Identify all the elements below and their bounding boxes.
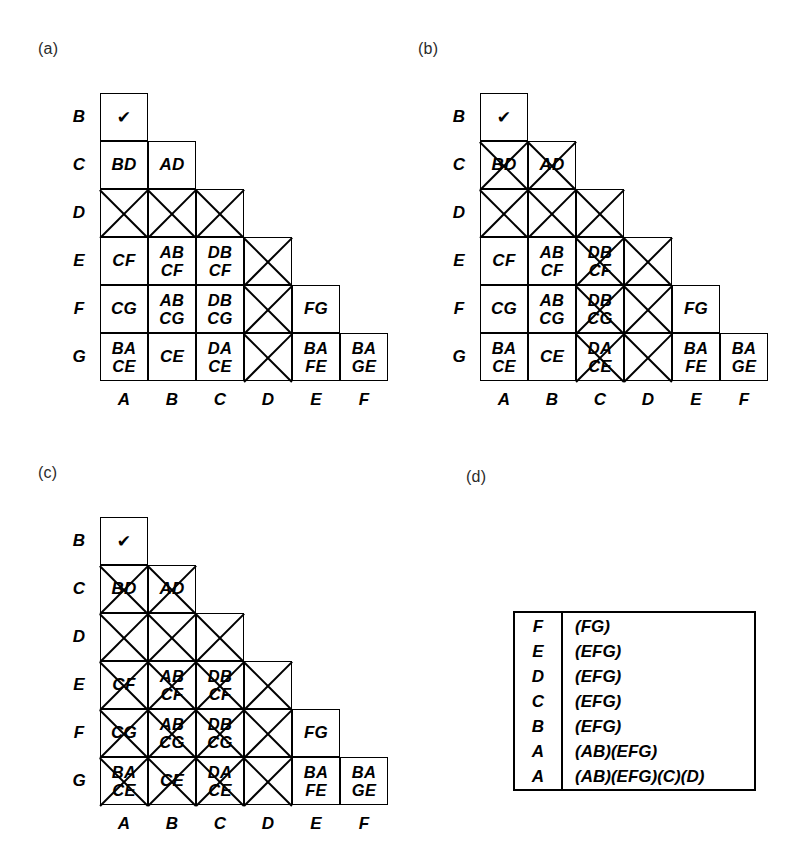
matrix-row-label-f: F (66, 285, 92, 333)
matrix-cell-af: CG (100, 285, 148, 333)
matrix-cell-line: CG (491, 300, 517, 317)
matrix-cell-line: CG (207, 309, 232, 327)
matrix-col-label-f: F (340, 813, 388, 835)
matrix-cell-eg: BAFE (292, 757, 340, 805)
matrix-cell-ad (480, 189, 528, 237)
matrix-cell-ce: DBCF (576, 237, 624, 285)
matrix-cell-df (244, 285, 292, 333)
matrix-cell-af: CG (100, 709, 148, 757)
matrix-col-label-e: E (672, 389, 720, 411)
matrix-cell-df (624, 285, 672, 333)
matrix-cell-line: CG (539, 309, 564, 327)
matrix-cell-line: CG (111, 300, 137, 317)
matrix-row-label-f: F (66, 709, 92, 757)
matrix-cell-de (624, 237, 672, 285)
matrix-cell-bd (148, 189, 196, 237)
matrix-cell-ad (100, 613, 148, 661)
matrix-cell-fg: BAGE (720, 333, 768, 381)
legend-row-key: F (515, 617, 561, 637)
matrix-cell-bf: ABCG (148, 285, 196, 333)
matrix-cell-ag: BACE (480, 333, 528, 381)
matrix-cell-de (244, 237, 292, 285)
matrix-col-label-f: F (340, 389, 388, 411)
matrix-cell-bg: CE (528, 333, 576, 381)
matrix-cell-cf: DBCG (196, 709, 244, 757)
matrix-col-label-a: A (480, 389, 528, 411)
matrix-cell-bd (148, 613, 196, 661)
matrix-cell-be: ABCF (148, 661, 196, 709)
matrix-cell-ae: CF (100, 661, 148, 709)
matrix-cell-line: AD (159, 580, 184, 597)
matrix-cell-check: ✔ (100, 517, 148, 565)
matrix-cell-line: BA (684, 339, 708, 357)
matrix-cell-ce: DBCF (196, 237, 244, 285)
matrix-cell-line: CF (112, 252, 135, 269)
matrix-cell-line: AD (159, 156, 184, 173)
matrix-row-label-d: D (446, 189, 472, 237)
legend-table-row: B(EFG) (515, 715, 754, 740)
matrix-cell-cd (196, 613, 244, 661)
legend-row-value: (AB)(EFG) (561, 742, 657, 762)
legend-row-value: (EFG) (561, 717, 621, 737)
matrix-cell-cd (196, 189, 244, 237)
matrix-cell-line: GE (732, 357, 756, 375)
legend-row-value: (EFG) (561, 692, 621, 712)
matrix-col-label-d: D (244, 813, 292, 835)
matrix-col-label-b: B (528, 389, 576, 411)
matrix-cell-ce: DBCF (196, 661, 244, 709)
matrix-cell-eg: BAFE (672, 333, 720, 381)
legend-row-key: A (515, 742, 561, 762)
matrix-cell-line: AB (160, 291, 184, 309)
matrix-cell-bg: CE (148, 757, 196, 805)
matrix-cell-bc: AD (148, 565, 196, 613)
matrix-cell-line: GE (352, 357, 376, 375)
matrix-cell-line: AB (160, 243, 184, 261)
matrix-cell-line: AB (540, 291, 564, 309)
matrix-cell-line: CE (492, 357, 516, 375)
matrix-col-label-a: A (100, 389, 148, 411)
panel-label-d: (d) (466, 468, 486, 486)
matrix-cell-line: BA (304, 339, 328, 357)
matrix-cell-fg: BAGE (340, 333, 388, 381)
matrix-cell-cf: DBCG (576, 285, 624, 333)
matrix-cell-line: CE (588, 357, 612, 375)
matrix-cell-line: FE (305, 357, 327, 375)
matrix-col-label-d: D (624, 389, 672, 411)
matrix-cell-ef: FG (672, 285, 720, 333)
matrix-cell-eg: BAFE (292, 333, 340, 381)
matrix-row-label-e: E (66, 661, 92, 709)
matrix-col-label-d: D (244, 389, 292, 411)
matrix-cell-cg: DACE (196, 333, 244, 381)
legend-table-row: A(AB)(EFG)(C)(D) (515, 765, 754, 790)
matrix-cell-line: FG (304, 724, 328, 741)
matrix-cell-line: AB (540, 243, 564, 261)
matrix-cell-line: GE (352, 781, 376, 799)
legend-row-key: E (515, 642, 561, 662)
matrix-cell-cg: DACE (576, 333, 624, 381)
matrix-row-label-c: C (446, 141, 472, 189)
legend-row-key: B (515, 717, 561, 737)
matrix-cell-line: BD (111, 580, 136, 597)
matrix-row-label-g: G (66, 333, 92, 381)
matrix-row-label-c: C (66, 141, 92, 189)
matrix-cell-line: FE (305, 781, 327, 799)
legend-row-value: (AB)(EFG)(C)(D) (561, 767, 704, 787)
matrix-cell-line: CF (112, 676, 135, 693)
matrix-cell-line: CE (160, 348, 184, 365)
matrix-cell-line: CF (161, 261, 184, 279)
legend-table-row: C(EFG) (515, 689, 754, 714)
matrix-cell-line: CE (112, 781, 136, 799)
matrix-cell-line: BA (304, 763, 328, 781)
matrix-cell-ac: BD (480, 141, 528, 189)
matrix-cell-bf: ABCG (528, 285, 576, 333)
matrix-cell-line: BA (492, 339, 516, 357)
legend-table-row: A(AB)(EFG) (515, 740, 754, 765)
matrix-cell-cg: DACE (196, 757, 244, 805)
matrix-cell-line: CE (540, 348, 564, 365)
matrix-cell-cd (576, 189, 624, 237)
matrix-cell-line: BA (112, 339, 136, 357)
matrix-cell-ef: FG (292, 709, 340, 757)
matrix-cell-line: CG (111, 724, 137, 741)
checkmark-icon: ✔ (497, 109, 512, 126)
matrix-cell-bf: ABCG (148, 709, 196, 757)
